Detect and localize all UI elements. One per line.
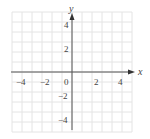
- x-axis-label: x: [137, 66, 143, 77]
- y-axis-arrow-icon: [70, 13, 75, 20]
- x-tick-label: 2: [94, 77, 99, 87]
- y-tick-label: −2: [58, 91, 68, 101]
- x-tick-label: −2: [40, 77, 50, 87]
- x-tick-label: −4: [16, 77, 26, 87]
- y-tick-label: 2: [64, 44, 69, 54]
- x-tick-label: 4: [118, 77, 123, 87]
- y-tick-label: −4: [58, 115, 68, 125]
- y-tick-label: 4: [64, 20, 69, 30]
- y-axis-label: y: [68, 3, 74, 14]
- coordinate-plane: x y −4 −2 0 2 4 4 2 −2 −4: [0, 0, 150, 139]
- x-tick-label: 0: [64, 77, 69, 87]
